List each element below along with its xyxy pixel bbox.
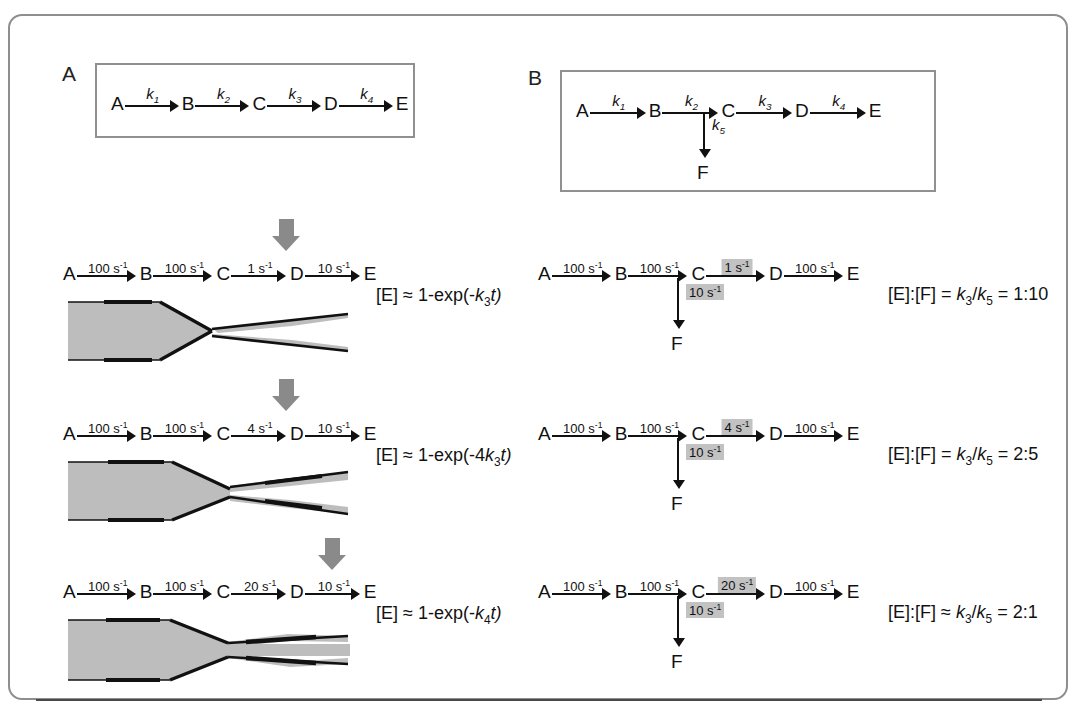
rate-label-highlight: 20 s-1	[718, 577, 756, 593]
species-a: A	[110, 94, 125, 113]
species-c: C	[215, 582, 231, 601]
species-a: A	[537, 424, 552, 443]
rate-label-k3: k3	[289, 86, 302, 105]
rate-label-k4: k4	[360, 86, 373, 105]
rate-label: 100 s-1	[165, 421, 204, 435]
rate-step-2: 100 s-1	[628, 418, 690, 448]
species-c: C	[690, 582, 706, 601]
species-d: D	[768, 582, 784, 601]
rate-step-1: 100 s-1	[552, 418, 614, 448]
species-d: D	[768, 424, 784, 443]
species-b: B	[139, 582, 154, 601]
species-d: D	[289, 582, 305, 601]
panel-a-row1-reaction: A 100 s-1 B 100 s-1 C 1 s-1 D 10 s-1 E	[62, 258, 378, 288]
species-d: D	[794, 101, 810, 120]
step-k3: k3	[267, 88, 323, 118]
species-a: A	[575, 101, 590, 120]
step-k4: k4	[339, 88, 395, 118]
rate-step-2: 100 s-1	[153, 576, 215, 606]
branch-rate-label: 10 s-1	[686, 602, 724, 618]
flow-funnel-row3	[60, 606, 350, 691]
step-k3: k3	[736, 95, 794, 125]
rate-label: 100 s-1	[165, 579, 204, 593]
step-k4: k4	[810, 95, 868, 125]
species-f: F	[671, 494, 683, 513]
rate-label: 100 s-1	[88, 579, 127, 593]
rate-step-1: 100 s-1	[552, 258, 614, 288]
species-b: B	[648, 101, 663, 120]
species-c: C	[690, 424, 706, 443]
rate-step-3: 20 s-1	[231, 576, 289, 606]
equation-row3: [E] ≈ 1-exp(-k4t)	[376, 604, 502, 626]
rate-step-4: 10 s-1	[305, 258, 363, 288]
species-a: A	[537, 264, 552, 283]
rate-label: 100 s-1	[795, 421, 834, 435]
rate-step-1: 100 s-1	[77, 418, 139, 448]
branch-rate-label: 10 s-1	[686, 444, 724, 460]
species-a: A	[62, 582, 77, 601]
rate-label: 100 s-1	[563, 261, 602, 275]
species-c: C	[215, 264, 231, 283]
rate-label-k1: k1	[612, 93, 625, 112]
species-f: F	[671, 334, 683, 353]
rate-step-4: 10 s-1	[305, 418, 363, 448]
species-e: E	[363, 424, 378, 443]
rate-step-2: 100 s-1	[153, 258, 215, 288]
panel-label-b: B	[528, 66, 542, 90]
panel-label-a: A	[62, 62, 76, 86]
rate-label: 10 s-1	[318, 261, 350, 275]
rate-step-1: 100 s-1	[552, 576, 614, 606]
species-f: F	[697, 163, 709, 182]
flow-funnel-row2	[60, 450, 350, 532]
panel-a-row2-reaction: A 100 s-1 B 100 s-1 C 4 s-1 D 10 s-1 E	[62, 418, 378, 448]
rate-step-3: 1 s-1	[231, 258, 289, 288]
step-k1: k1	[125, 88, 181, 118]
rate-step-1: 100 s-1	[77, 576, 139, 606]
panel-a-scheme-reaction: A k1 B k2 C k3 D k4 E	[110, 88, 410, 118]
ratio-row1: [E]:[F] = k3/k5 = 1:10	[888, 285, 1048, 307]
rate-label-k4: k4	[832, 93, 845, 112]
ratio-row3: [E]:[F] ≈ k3/k5 = 2:1	[888, 603, 1038, 625]
species-d: D	[323, 94, 339, 113]
equation-row1: [E] ≈ 1-exp(-k3t)	[376, 286, 502, 308]
bottom-rule	[36, 699, 1042, 701]
species-b: B	[181, 94, 196, 113]
rate-label-k3: k3	[759, 93, 772, 112]
rate-label: 100 s-1	[640, 421, 679, 435]
species-c: C	[215, 424, 231, 443]
rate-label-highlight: 1 s-1	[722, 259, 753, 275]
rate-label: 100 s-1	[795, 579, 834, 593]
species-e: E	[395, 94, 410, 113]
rate-label: 100 s-1	[640, 579, 679, 593]
rate-label: 4 s-1	[248, 421, 273, 435]
rate-step-2: 100 s-1	[628, 576, 690, 606]
species-b: B	[139, 264, 154, 283]
rate-label-highlight: 4 s-1	[722, 419, 753, 435]
rate-label: 100 s-1	[563, 579, 602, 593]
rate-step-4: 100 s-1	[784, 258, 846, 288]
rate-step-2: 100 s-1	[153, 418, 215, 448]
ratio-row2: [E]:[F] = k3/k5 = 2:5	[888, 445, 1038, 467]
species-e: E	[363, 582, 378, 601]
rate-label: 100 s-1	[795, 261, 834, 275]
species-a: A	[537, 582, 552, 601]
rate-step-4: 10 s-1	[305, 576, 363, 606]
step-k1: k1	[590, 95, 648, 125]
panel-b-scheme-reaction: A k1 B k2 C k3 D k4 E	[575, 95, 883, 125]
rate-step-3: 4 s-1	[231, 418, 289, 448]
species-a: A	[62, 424, 77, 443]
species-e: E	[846, 582, 861, 601]
rate-step-2: 100 s-1	[628, 258, 690, 288]
species-e: E	[868, 101, 883, 120]
rate-step-1: 100 s-1	[77, 258, 139, 288]
species-d: D	[289, 264, 305, 283]
species-f: F	[671, 652, 683, 671]
species-e: E	[846, 424, 861, 443]
species-b: B	[614, 264, 629, 283]
rate-label-k5: k5	[712, 117, 725, 136]
species-c: C	[251, 94, 267, 113]
species-c: C	[690, 264, 706, 283]
rate-label-k1: k1	[146, 86, 159, 105]
species-d: D	[768, 264, 784, 283]
panel-b-scheme-box	[560, 70, 936, 192]
